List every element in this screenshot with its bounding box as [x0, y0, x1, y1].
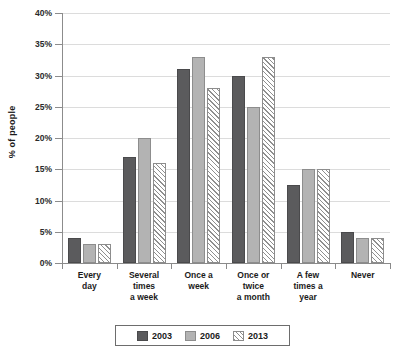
bar-2013 [317, 169, 330, 263]
bar-2013 [153, 163, 166, 263]
bar-2006 [302, 169, 315, 263]
bar-2003 [68, 238, 81, 263]
y-tick-20% [55, 138, 62, 139]
y-tick-30% [55, 76, 62, 77]
x-axis-label-1: Everyday [62, 270, 117, 316]
x-axis-ticks [62, 263, 390, 269]
bar-2006 [138, 138, 151, 263]
x-axis-label-6: Never [335, 270, 390, 316]
bar-2013 [371, 238, 384, 263]
bar-2006 [247, 107, 260, 263]
bar-2003 [123, 157, 136, 263]
y-axis-tick-labels: 0%5%10%15%20%25%30%35%40% [0, 0, 52, 355]
y-tick-15% [55, 169, 62, 170]
x-axis-category-labels: EverydaySeveraltimesa weekOnce aweekOnce… [62, 270, 390, 316]
legend-swatch-2003 [137, 331, 148, 341]
bar-2006 [192, 57, 205, 263]
legend-label-2003: 2003 [152, 331, 172, 341]
bar-2006 [356, 238, 369, 263]
legend-swatch-2013 [233, 331, 244, 341]
y-tick-40% [55, 13, 62, 14]
y-tick-25% [55, 107, 62, 108]
legend-item-2013[interactable]: 2013 [233, 331, 268, 341]
bar-2013 [262, 57, 275, 263]
bar-2013 [207, 88, 220, 263]
bar-group [335, 13, 390, 263]
y-tick-label-20%: 20% [0, 133, 52, 143]
bar-group [62, 13, 117, 263]
y-tick-label-10%: 10% [0, 196, 52, 206]
y-tick-label-35%: 35% [0, 39, 52, 49]
x-tick [226, 263, 227, 269]
y-tick-label-5%: 5% [0, 227, 52, 237]
bar-groups [62, 13, 390, 263]
bar-group [281, 13, 336, 263]
bar-2003 [177, 69, 190, 263]
bar-2003 [287, 185, 300, 263]
y-tick-label-15%: 15% [0, 164, 52, 174]
bar-group [117, 13, 172, 263]
x-axis-label-3: Once aweek [171, 270, 226, 316]
bar-2013 [98, 244, 111, 263]
y-tick-0% [55, 263, 62, 264]
y-tick-label-40%: 40% [0, 8, 52, 18]
x-axis-label-4: Once ortwicea month [226, 270, 281, 316]
x-axis-label-2: Severaltimesa week [117, 270, 172, 316]
legend-label-2013: 2013 [248, 331, 268, 341]
x-tick [62, 263, 63, 269]
x-tick [171, 263, 172, 269]
legend-swatch-2006 [185, 331, 196, 341]
bar-2003 [232, 76, 245, 264]
legend-label-2006: 2006 [200, 331, 220, 341]
x-tick [281, 263, 282, 269]
legend-item-2006[interactable]: 2006 [185, 331, 220, 341]
legend-item-2003[interactable]: 2003 [137, 331, 172, 341]
y-tick-label-0%: 0% [0, 258, 52, 268]
y-tick-label-25%: 25% [0, 102, 52, 112]
y-tick-35% [55, 44, 62, 45]
y-tick-10% [55, 201, 62, 202]
bar-2003 [341, 232, 354, 263]
bar-chart: % of people 0%5%10%15%20%25%30%35%40% Ev… [0, 0, 404, 355]
chart-legend: 200320062013 [115, 325, 290, 346]
y-tick-5% [55, 232, 62, 233]
x-tick [335, 263, 336, 269]
bar-group [171, 13, 226, 263]
bar-2006 [83, 244, 96, 263]
x-tick [117, 263, 118, 269]
bar-group [226, 13, 281, 263]
y-tick-label-30%: 30% [0, 71, 52, 81]
x-axis-label-5: A fewtimes ayear [281, 270, 336, 316]
x-tick [390, 263, 391, 269]
